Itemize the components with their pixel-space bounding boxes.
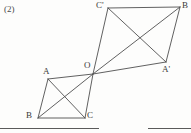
side-B-A bbox=[38, 79, 48, 118]
vertex-label-a: A bbox=[43, 67, 50, 76]
vertex-label-b-lower: B bbox=[26, 111, 32, 120]
vertex-label-o: O bbox=[84, 61, 91, 70]
diagonal-B-O bbox=[38, 74, 93, 118]
figure-page: (2) C' B A' O A B C bbox=[0, 0, 191, 133]
vertex-label-a-prime: A' bbox=[162, 65, 170, 74]
side-Cprime-B bbox=[108, 7, 180, 8]
side-B-Aprime bbox=[166, 7, 180, 62]
diagonal-Cprime-Aprime bbox=[108, 8, 166, 62]
vertex-label-c: C bbox=[87, 111, 93, 120]
footer-rule-right bbox=[148, 128, 191, 129]
side-Aprime-O bbox=[93, 62, 166, 74]
footer-rule-left bbox=[0, 128, 99, 129]
vertex-label-c-prime: C' bbox=[96, 1, 104, 10]
lower-quadrilateral bbox=[38, 74, 93, 118]
side-A-O bbox=[48, 74, 93, 79]
vertex-label-b-upper: B bbox=[182, 1, 188, 10]
